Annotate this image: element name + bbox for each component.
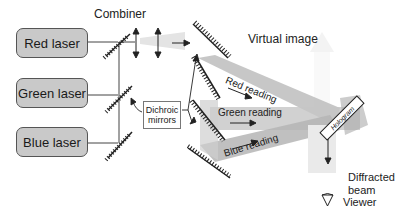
- viewer-label: Viewer: [343, 196, 376, 209]
- steering-mirror-top: [193, 22, 230, 58]
- diffracted-beam-label: Diffracted beam: [348, 171, 395, 196]
- diffracted-line1: Diffracted: [348, 171, 395, 184]
- blue-laser-box: Blue laser: [16, 127, 88, 157]
- red-laser-box: Red laser: [16, 28, 88, 58]
- dichroic-line1: Dichroic: [146, 105, 179, 115]
- viewer-eye-icon: [322, 194, 333, 207]
- lens-1: [133, 28, 139, 58]
- virtual-image-label: Virtual image: [248, 33, 318, 47]
- combiner-mirror: [104, 34, 130, 58]
- green-laser-box: Green laser: [16, 78, 88, 108]
- diffracted-line2: beam: [348, 184, 395, 197]
- combined-beam: [140, 32, 185, 50]
- dichroic-mirrors-label: Dichroic mirrors: [143, 101, 181, 129]
- green-reading-label: Green reading: [218, 107, 282, 118]
- combiner-label: Combiner: [94, 8, 146, 22]
- dichroic-line2: mirrors: [148, 115, 176, 125]
